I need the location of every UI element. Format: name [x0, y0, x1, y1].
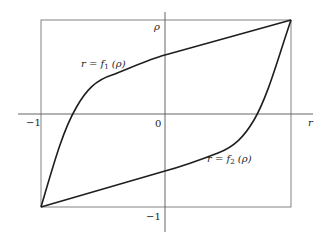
curve-f2 [41, 20, 291, 207]
y-min-label: −1 [146, 211, 161, 222]
curve-f1-label: r = f1 (ρ) [81, 58, 126, 71]
origin-label: 0 [155, 118, 161, 129]
rho-axis-label: ρ [153, 21, 160, 32]
curve-f1 [41, 20, 291, 207]
r-axis-label: r [308, 117, 314, 128]
phase-plane-diagram: ρ r 0 −1 −1 r = f1 (ρ) r = f2 (ρ) [0, 0, 330, 244]
unit-box [41, 20, 291, 207]
curve-f2-label: r = f2 (ρ) [207, 153, 252, 166]
x-min-label: −1 [26, 117, 41, 128]
